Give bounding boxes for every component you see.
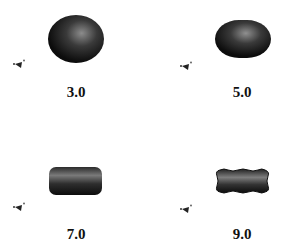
axis-triad-icon xyxy=(12,202,26,212)
wavy-bar-shape xyxy=(214,166,271,196)
axis-triad-icon xyxy=(179,61,193,71)
oblate-spheroid-shape xyxy=(213,18,273,60)
axis-triad-icon xyxy=(179,204,193,214)
panel-label: 5.0 xyxy=(222,84,262,101)
panel-label: 3.0 xyxy=(56,84,96,101)
sphere-shape xyxy=(46,13,106,65)
rounded-cylinder-shape xyxy=(47,165,104,197)
panel-label: 7.0 xyxy=(56,226,96,243)
axis-triad-icon xyxy=(12,59,26,69)
panel-label: 9.0 xyxy=(222,226,262,243)
